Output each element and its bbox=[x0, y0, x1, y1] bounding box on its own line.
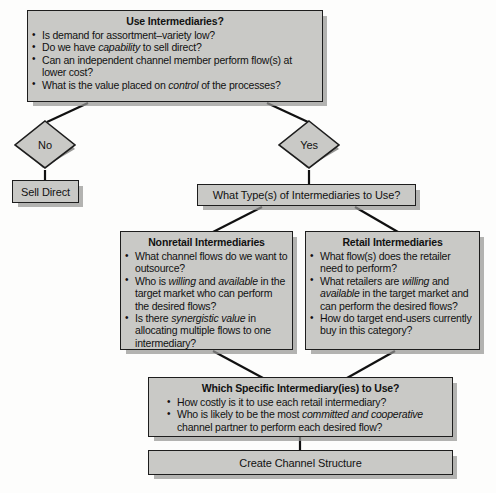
node-bullet-list: What flow(s) does the retailer need to p… bbox=[306, 250, 479, 337]
bullet-item: Who is likely to be the most committed a… bbox=[176, 408, 448, 433]
node-create-channel-structure[interactable]: Create Channel Structure bbox=[148, 450, 453, 475]
bullet-item: What retailers are willing and available… bbox=[319, 275, 475, 312]
node-title: Use Intermediaries? bbox=[28, 11, 322, 28]
node-bullet-list: Is demand for assortment–variety low? Do… bbox=[28, 29, 322, 91]
node-nonretail-intermediaries[interactable]: Nonretail Intermediaries What channel fl… bbox=[120, 231, 293, 350]
node-use-intermediaries[interactable]: Use Intermediaries? Is demand for assort… bbox=[27, 10, 323, 102]
bullet-item: Is there synergistic value in allocating… bbox=[134, 312, 288, 349]
bullet-item: What channel flows do we want to outsour… bbox=[134, 250, 288, 275]
node-what-type-of-intermediaries[interactable]: What Type(s) of Intermediaries to Use? bbox=[197, 184, 416, 206]
node-title: Which Specific Intermediary(ies) to Use? bbox=[149, 378, 452, 395]
edge-nonretail-to-which-specific bbox=[213, 351, 263, 378]
bullet-item: What flow(s) does the retailer need to p… bbox=[319, 250, 475, 275]
node-title: Nonretail Intermediaries bbox=[121, 232, 292, 249]
decision-label: Yes bbox=[300, 139, 318, 151]
node-title: Retail Intermediaries bbox=[306, 232, 479, 249]
decision-no[interactable]: No bbox=[13, 120, 77, 170]
node-sell-direct[interactable]: Sell Direct bbox=[12, 180, 79, 203]
node-label: What Type(s) of Intermediaries to Use? bbox=[213, 189, 400, 201]
bullet-item: Do we have capability to sell direct? bbox=[41, 41, 318, 53]
bullet-item: How do target end-users currently buy in… bbox=[319, 312, 475, 337]
node-label: Create Channel Structure bbox=[239, 457, 361, 469]
node-retail-intermediaries[interactable]: Retail Intermediaries What flow(s) does … bbox=[305, 231, 480, 350]
bullet-item: Is demand for assortment–variety low? bbox=[41, 29, 318, 41]
node-bullet-list: What channel flows do we want to outsour… bbox=[121, 250, 292, 349]
bullet-item: How costly is it to use each retail inte… bbox=[176, 396, 448, 408]
node-bullet-list: How costly is it to use each retail inte… bbox=[149, 396, 452, 433]
node-which-specific-intermediary[interactable]: Which Specific Intermediary(ies) to Use?… bbox=[148, 377, 453, 437]
edge-what-type-to-nonretail bbox=[213, 207, 262, 232]
node-label: Sell Direct bbox=[21, 186, 70, 198]
bullet-item: Can an independent channel member perfor… bbox=[41, 54, 318, 79]
decision-label: No bbox=[38, 139, 52, 151]
edge-what-type-to-retail bbox=[355, 207, 398, 232]
edge-retail-to-which-specific bbox=[347, 351, 395, 378]
bullet-item: What is the value placed on control of t… bbox=[41, 79, 318, 91]
decision-yes[interactable]: Yes bbox=[277, 120, 341, 170]
flowchart-canvas: Use Intermediaries? Is demand for assort… bbox=[0, 0, 496, 493]
bullet-item: Who is willing and available in the targ… bbox=[134, 275, 288, 312]
